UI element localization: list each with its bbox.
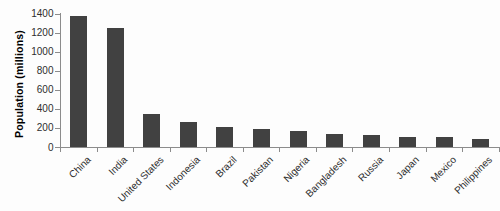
bar-russia	[363, 135, 380, 147]
x-tick-mark	[352, 147, 353, 152]
y-tick-label: 0	[14, 141, 54, 154]
bar-philippines	[472, 139, 489, 147]
bar-indonesia	[180, 122, 197, 147]
x-label-mexico: Mexico	[428, 154, 458, 184]
y-tick-mark	[55, 109, 60, 110]
y-axis-line	[60, 13, 61, 148]
x-tick-mark	[60, 147, 61, 152]
y-tick-label: 400	[14, 102, 54, 115]
bar-united-states	[143, 114, 160, 147]
x-tick-mark	[426, 147, 427, 152]
x-label-india: India	[106, 154, 129, 177]
x-tick-mark	[170, 147, 171, 152]
y-tick-label: 200	[14, 121, 54, 134]
x-tick-mark	[499, 147, 500, 152]
y-tick-mark	[55, 128, 60, 129]
x-tick-mark	[97, 147, 98, 152]
bar-japan	[399, 137, 416, 147]
x-label-indonesia: Indonesia	[164, 154, 202, 192]
x-tick-mark	[133, 147, 134, 152]
y-tick-mark	[55, 52, 60, 53]
bar-mexico	[436, 137, 453, 147]
bar-bangladesh	[326, 134, 343, 147]
x-label-china: China	[66, 154, 92, 180]
x-label-nigeria: Nigeria	[282, 154, 312, 184]
x-tick-mark	[279, 147, 280, 152]
x-label-japan: Japan	[394, 154, 421, 181]
x-label-russia: Russia	[356, 154, 385, 183]
y-tick-label: 800	[14, 64, 54, 77]
y-tick-label: 1000	[14, 45, 54, 58]
bar-china	[70, 16, 87, 147]
y-tick-mark	[55, 14, 60, 15]
y-tick-mark	[55, 90, 60, 91]
y-tick-mark	[55, 71, 60, 72]
y-tick-mark	[55, 33, 60, 34]
bar-pakistan	[253, 129, 270, 147]
x-tick-mark	[389, 147, 390, 152]
x-tick-mark	[462, 147, 463, 152]
y-tick-label: 1400	[14, 7, 54, 20]
x-label-pakistan: Pakistan	[240, 154, 275, 189]
bar-india	[107, 28, 124, 147]
y-tick-label: 1200	[14, 26, 54, 39]
x-tick-mark	[206, 147, 207, 152]
x-label-philippines: Philippines	[453, 154, 495, 196]
y-tick-label: 600	[14, 83, 54, 96]
population-bar-chart: Population (millions) 020040060080010001…	[0, 0, 500, 211]
x-tick-mark	[316, 147, 317, 152]
bar-nigeria	[290, 131, 307, 147]
bar-brazil	[216, 127, 233, 147]
x-tick-mark	[243, 147, 244, 152]
x-label-brazil: Brazil	[213, 154, 238, 179]
